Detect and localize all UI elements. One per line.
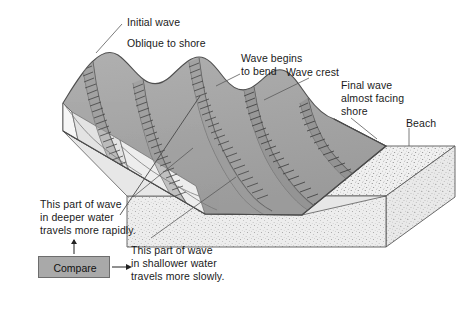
compare-box: Compare <box>38 256 110 278</box>
label-wave-crest: Wave crest <box>286 66 339 79</box>
label-wave-begins-to-bend-line2: to bend <box>241 65 277 78</box>
label-shallower-water-line2: in shallower water <box>131 257 217 270</box>
label-shallower-water-line3: travels more slowly. <box>131 270 224 283</box>
label-oblique-to-shore: Oblique to shore <box>127 37 206 50</box>
label-initial-wave: Initial wave <box>127 16 180 29</box>
label-final-wave-line3: shore <box>341 105 368 118</box>
label-shallower-water-line1: This part of wave <box>131 244 213 257</box>
leader-initial-wave <box>96 24 122 53</box>
label-beach: Beach <box>406 117 436 130</box>
compare-box-label: Compare <box>39 257 111 279</box>
label-wave-begins-to-bend-line1: Wave begins <box>241 52 302 65</box>
label-final-wave-line1: Final wave <box>341 79 392 92</box>
label-deeper-water-line3: travels more rapidly. <box>40 224 136 237</box>
wave-refraction-figure: Initial wave Oblique to shore Wave begin… <box>0 0 470 320</box>
label-deeper-water-line1: This part of wave <box>40 198 122 211</box>
label-final-wave-line2: almost facing <box>341 92 404 105</box>
label-deeper-water-line2: in deeper water <box>40 211 114 224</box>
